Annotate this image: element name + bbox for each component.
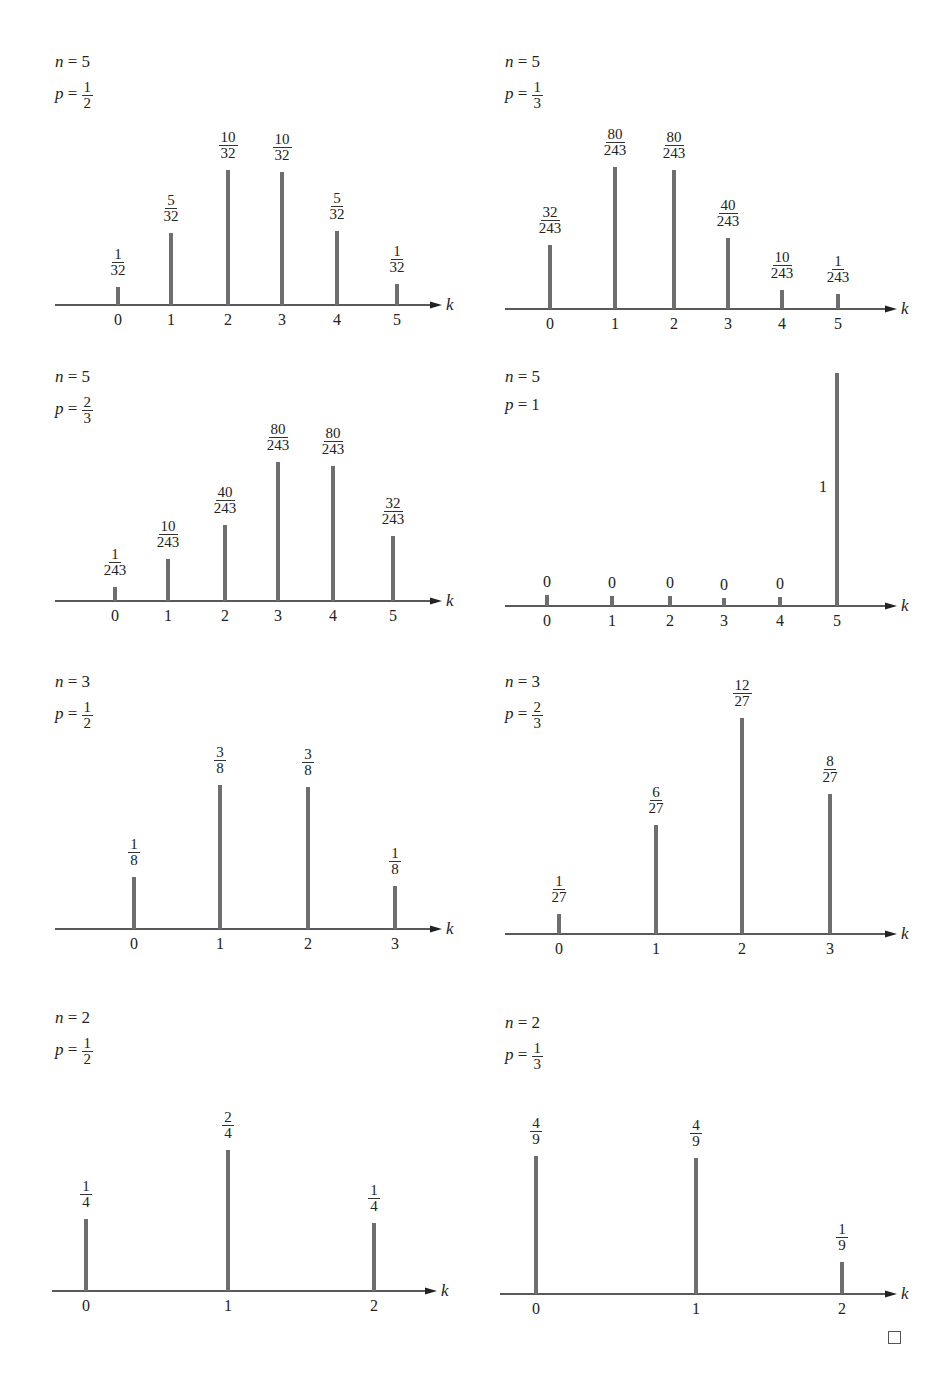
probability-fraction: 49 — [690, 1118, 702, 1149]
stem-plot: k012 — [0, 0, 947, 1383]
x-axis-label: k — [901, 1284, 909, 1303]
probability-fraction: 49 — [530, 1116, 542, 1147]
end-of-proof-square-icon — [888, 1331, 901, 1344]
x-tick-label: 1 — [692, 1300, 700, 1317]
axis-arrow-icon — [885, 1291, 897, 1298]
value-label: 49 — [666, 1118, 726, 1149]
value-label: 49 — [506, 1116, 566, 1147]
x-tick-label: 0 — [532, 1300, 540, 1317]
x-tick-label: 2 — [838, 1300, 846, 1317]
value-label: 19 — [812, 1222, 872, 1253]
probability-fraction: 19 — [836, 1222, 848, 1253]
